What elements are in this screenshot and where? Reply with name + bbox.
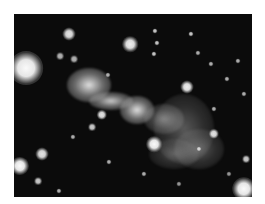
star: [146, 136, 162, 152]
star: [152, 28, 157, 33]
nebula-photograph: [14, 14, 252, 197]
star: [211, 106, 216, 111]
star: [97, 110, 107, 120]
star: [105, 72, 110, 77]
star: [208, 61, 213, 66]
star: [188, 31, 193, 36]
star: [36, 148, 49, 161]
star: [241, 91, 246, 96]
star: [70, 55, 78, 63]
star: [232, 177, 252, 197]
star: [122, 36, 138, 52]
star: [141, 171, 146, 176]
star: [70, 134, 75, 139]
star: [106, 159, 111, 164]
star: [181, 81, 194, 94]
star: [63, 28, 76, 41]
star: [195, 50, 200, 55]
star: [56, 188, 61, 193]
star: [14, 157, 29, 175]
star: [56, 52, 64, 60]
star: [88, 123, 96, 131]
star: [224, 76, 229, 81]
star: [226, 171, 231, 176]
star: [154, 40, 159, 45]
star: [34, 177, 42, 185]
star: [14, 51, 43, 85]
star: [235, 58, 240, 63]
star: [242, 155, 250, 163]
star: [151, 51, 156, 56]
star: [176, 181, 181, 186]
